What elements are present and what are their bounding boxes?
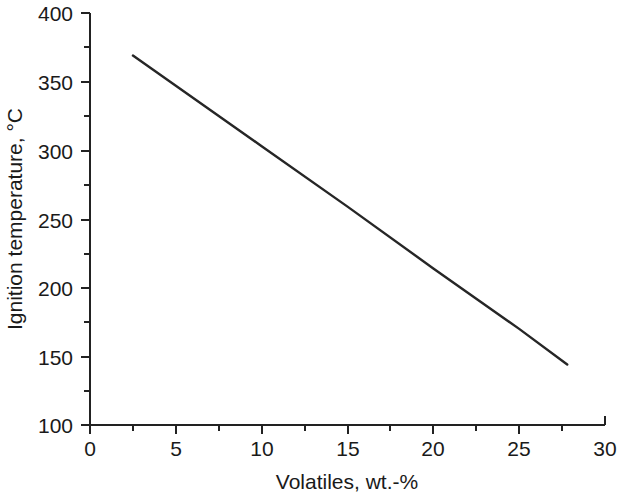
chart-figure: 400 350 300 250 200 150 100 0 5 10 15 20… xyxy=(0,0,617,498)
y-tick-label: 350 xyxy=(38,71,73,94)
x-tick-label: 0 xyxy=(84,437,96,460)
y-tick-label: 100 xyxy=(38,414,73,437)
x-tick-label: 30 xyxy=(593,437,616,460)
y-tick-label: 400 xyxy=(38,2,73,25)
data-line-ignition-temperature xyxy=(133,56,567,365)
y-tick-label: 300 xyxy=(38,140,73,163)
x-tick-label: 5 xyxy=(170,437,182,460)
y-tick-label: 150 xyxy=(38,346,73,369)
x-tick-label: 25 xyxy=(507,437,530,460)
x-axis-title: Volatiles, wt.-% xyxy=(276,470,418,493)
y-axis-major-ticks xyxy=(81,13,90,425)
y-axis-title: Ignition temperature, °C xyxy=(3,108,26,330)
line-chart: 400 350 300 250 200 150 100 0 5 10 15 20… xyxy=(0,0,617,498)
x-tick-label: 15 xyxy=(336,437,359,460)
x-tick-label: 20 xyxy=(421,437,444,460)
y-tick-label: 200 xyxy=(38,277,73,300)
data-series-group xyxy=(133,56,567,365)
x-tick-label: 10 xyxy=(250,437,273,460)
y-axis-tick-labels: 400 350 300 250 200 150 100 xyxy=(38,2,73,437)
x-axis-tick-labels: 0 5 10 15 20 25 30 xyxy=(84,437,617,460)
y-tick-label: 250 xyxy=(38,209,73,232)
